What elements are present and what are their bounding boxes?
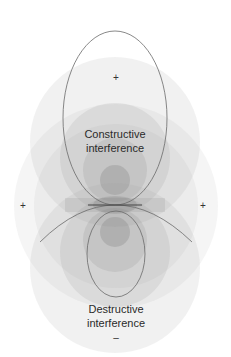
destructive-line2: interference — [66, 316, 166, 330]
constructive-line2: interference — [65, 141, 165, 155]
plus-sign-left: + — [17, 201, 29, 211]
constructive-line1: Constructive — [65, 127, 165, 141]
destructive-label: Destructive interference — [66, 302, 166, 330]
minus-sign-bottom: – — [110, 333, 122, 343]
plus-sign-top: + — [110, 73, 122, 83]
destructive-line1: Destructive — [66, 302, 166, 316]
plus-sign-right: + — [197, 201, 209, 211]
constructive-label: Constructive interference — [65, 127, 165, 155]
